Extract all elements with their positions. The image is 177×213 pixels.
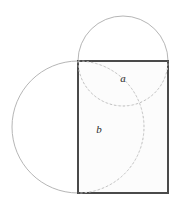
figure-canvas: a b xyxy=(0,0,177,213)
label-b: b xyxy=(96,123,102,135)
geometry-figure-svg: a b xyxy=(0,0,177,213)
label-a: a xyxy=(120,72,126,84)
